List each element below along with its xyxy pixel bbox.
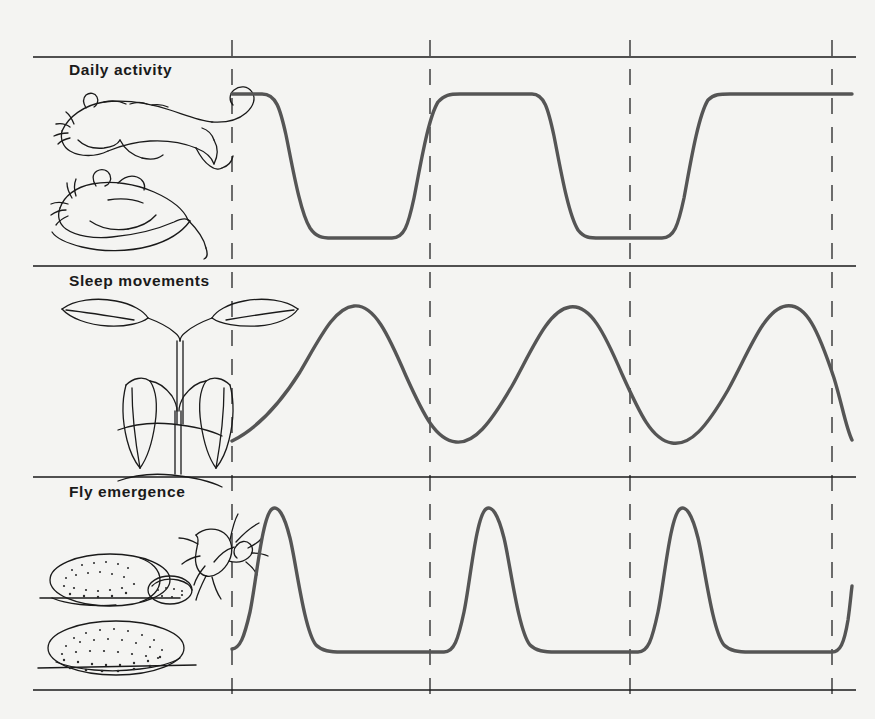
figure-canvas xyxy=(0,0,875,719)
panel-title-fly-emergence: Fly emergence xyxy=(69,483,185,501)
circadian-figure xyxy=(0,0,875,719)
panel-title-sleep-movements: Sleep movements xyxy=(69,272,210,290)
panel-title-daily-activity: Daily activity xyxy=(69,61,172,79)
